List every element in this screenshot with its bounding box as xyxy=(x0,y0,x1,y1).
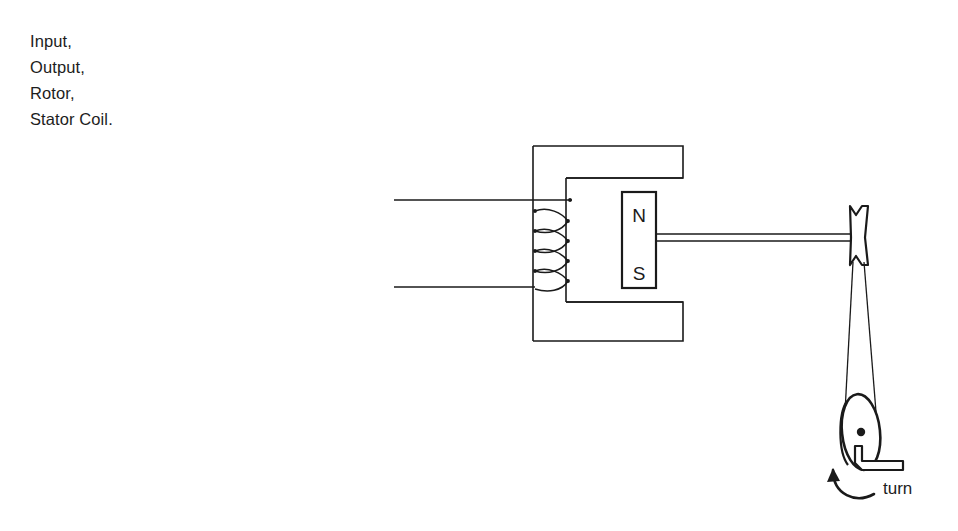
stator-core-outer xyxy=(533,146,683,341)
stator-coil-winding xyxy=(535,209,568,291)
axle-center-dot xyxy=(857,428,865,436)
magnet-south-label: S xyxy=(633,263,646,284)
drive-belt xyxy=(845,262,876,412)
rotor-shaft xyxy=(656,234,852,241)
turn-label: turn xyxy=(883,479,912,499)
diagram-canvas: Input, Output, Rotor, Stator Coil. xyxy=(0,0,958,531)
rotation-arrow xyxy=(827,468,874,498)
pulley-spool xyxy=(850,206,868,265)
generator-schematic: N S xyxy=(0,0,958,531)
magnet-north-label: N xyxy=(632,205,646,226)
